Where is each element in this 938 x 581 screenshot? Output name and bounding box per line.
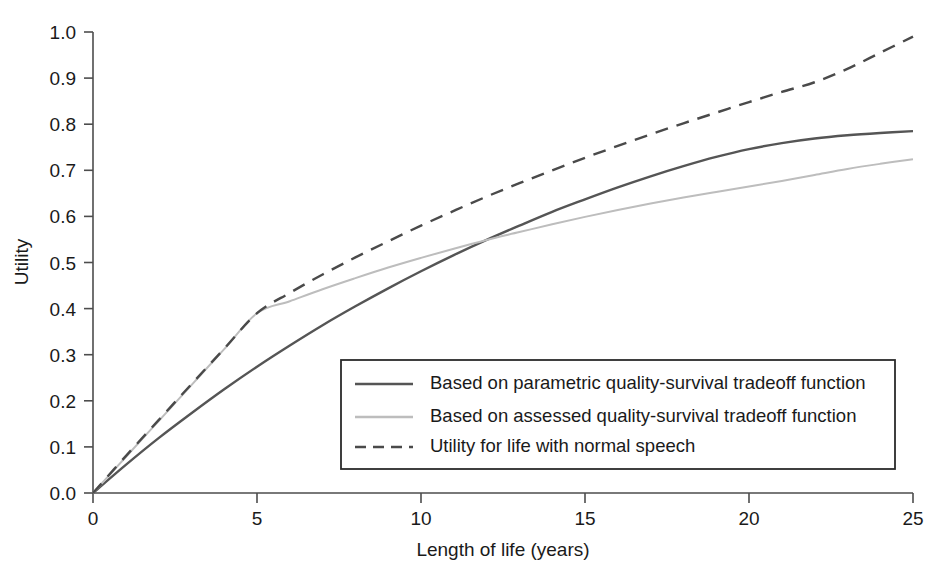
y-tick-label: 0.7	[50, 160, 76, 181]
y-tick-label: 0.3	[50, 345, 76, 366]
x-tick-label: 5	[252, 508, 263, 529]
legend-label-2: Based on assessed quality-survival trade…	[430, 405, 856, 426]
utility-vs-length-of-life-chart: 0.00.10.20.30.40.50.60.70.80.91.0 051015…	[0, 0, 938, 581]
x-tick-label: 0	[88, 508, 99, 529]
y-tick-label: 0.0	[50, 483, 76, 504]
chart-figure: 0.00.10.20.30.40.50.60.70.80.91.0 051015…	[0, 0, 938, 581]
x-axis-ticks: 0510152025	[88, 493, 924, 529]
y-axis-title: Utility	[11, 238, 32, 285]
y-tick-label: 0.2	[50, 391, 76, 412]
x-axis-title: Length of life (years)	[416, 539, 589, 560]
x-tick-label: 25	[902, 508, 923, 529]
x-tick-label: 15	[574, 508, 595, 529]
y-tick-label: 0.9	[50, 68, 76, 89]
y-tick-label: 0.1	[50, 437, 76, 458]
y-axis-ticks: 0.00.10.20.30.40.50.60.70.80.91.0	[50, 22, 93, 504]
legend-label-1: Based on parametric quality-survival tra…	[430, 372, 866, 393]
x-tick-label: 20	[738, 508, 759, 529]
y-tick-label: 0.4	[50, 299, 77, 320]
chart-legend: Based on parametric quality-survival tra…	[341, 360, 895, 469]
y-tick-label: 0.8	[50, 114, 76, 135]
y-tick-label: 0.5	[50, 253, 76, 274]
legend-label-3: Utility for life with normal speech	[430, 435, 695, 456]
x-tick-label: 10	[410, 508, 431, 529]
y-tick-label: 0.6	[50, 206, 76, 227]
y-tick-label: 1.0	[50, 22, 76, 43]
